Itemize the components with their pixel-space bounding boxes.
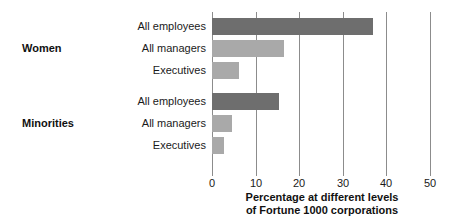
bar-fill — [212, 115, 232, 132]
bar-women-all-employees — [212, 18, 373, 35]
bar-fill — [212, 18, 373, 35]
tick-label-10: 10 — [241, 177, 271, 189]
tick-label-50: 50 — [415, 177, 445, 189]
gridline-20 — [299, 12, 300, 170]
tick-mark-40 — [386, 170, 387, 176]
gridline-40 — [386, 12, 387, 170]
group-label-minorities: Minorities — [22, 115, 118, 132]
bar-fill — [212, 137, 224, 154]
bar-fill — [212, 62, 239, 79]
bar-women-all-managers — [212, 40, 284, 57]
tick-label-20: 20 — [284, 177, 314, 189]
x-axis-title-line-1: Percentage at different levels — [212, 191, 432, 204]
group-label-column: WomenMinorities — [22, 12, 122, 170]
x-axis-title: Percentage at different levels of Fortun… — [212, 191, 432, 217]
x-axis-title-line-2: of Fortune 1000 corporations — [212, 204, 432, 217]
gridline-10 — [256, 12, 257, 170]
bar-fill — [212, 40, 284, 57]
tick-label-30: 30 — [328, 177, 358, 189]
bar-minorities-all-employees — [212, 93, 279, 110]
bar-minorities-executives — [212, 137, 224, 154]
bar-chart: All employeesAll managersExecutivesAll e… — [0, 0, 466, 217]
tick-mark-30 — [343, 170, 344, 176]
group-label-women: Women — [22, 40, 118, 57]
tick-mark-50 — [430, 170, 431, 176]
gridline-50 — [430, 12, 431, 170]
tick-label-40: 40 — [371, 177, 401, 189]
tick-label-0: 0 — [197, 177, 227, 189]
tick-mark-0 — [212, 170, 213, 176]
bar-women-executives — [212, 62, 239, 79]
tick-mark-20 — [299, 170, 300, 176]
gridline-30 — [343, 12, 344, 170]
plot-area — [212, 12, 430, 170]
bar-minorities-all-managers — [212, 115, 232, 132]
tick-mark-10 — [256, 170, 257, 176]
bar-fill — [212, 93, 279, 110]
